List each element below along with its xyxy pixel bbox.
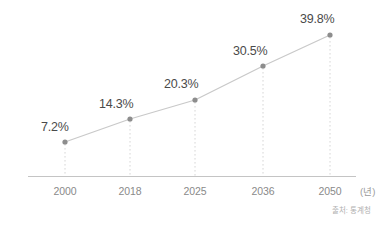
value-label-2036: 30.5% (233, 45, 267, 58)
x-tick-label-2050: 2050 (310, 186, 350, 197)
x-tick-label-2025: 2025 (175, 186, 215, 197)
data-point-2000 (62, 139, 67, 144)
value-label-2000: 7.2% (41, 121, 69, 134)
data-point-2036 (260, 63, 265, 68)
x-tick-label-2036: 2036 (243, 186, 283, 197)
line-chart: 7.2% 14.3% 20.3% 30.5% 39.8% 2000 2018 2… (0, 0, 388, 228)
data-point-2050 (327, 32, 332, 37)
value-label-2050: 39.8% (300, 13, 334, 26)
x-tick-label-2000: 2000 (45, 186, 85, 197)
value-label-2018: 14.3% (99, 98, 133, 111)
value-label-2025: 20.3% (164, 78, 198, 91)
x-tick-label-2018: 2018 (110, 186, 150, 197)
data-point-2025 (192, 97, 197, 102)
source-note: 출처: 통계청 (332, 207, 370, 215)
data-point-2018 (127, 116, 132, 121)
x-axis-unit-label: (년) (360, 187, 375, 197)
